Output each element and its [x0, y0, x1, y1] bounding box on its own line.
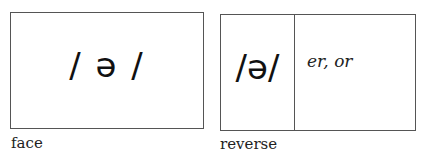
reverse-phoneme: /ə/	[221, 47, 294, 87]
handwritten-spellings: er, or	[307, 51, 353, 71]
reverse-card: /ə/ er, or	[220, 14, 416, 131]
reverse-label: reverse	[220, 135, 277, 153]
reverse-spelling-panel: er, or	[295, 15, 415, 130]
reverse-phoneme-panel: /ə/	[221, 15, 295, 130]
face-label: face	[11, 134, 43, 152]
face-phoneme: / ə /	[11, 45, 203, 85]
face-card: / ə /	[10, 12, 204, 129]
